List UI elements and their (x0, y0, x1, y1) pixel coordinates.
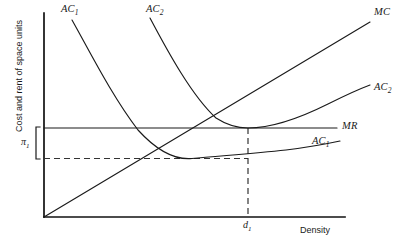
curve-label-mc: MC (374, 6, 390, 17)
curve-label-ac1-right: AC1 (312, 135, 330, 149)
guides-group (44, 128, 248, 217)
y-axis-title: Cost and rent of space units (14, 20, 24, 132)
d1-tick-label: d1 (243, 219, 252, 233)
pi-bracket (36, 127, 40, 159)
curve-ac1 (72, 20, 340, 159)
figure-container: AC1 AC2 MC AC2 MR AC1 π1 d1 Density Cost… (0, 0, 405, 244)
bracket-group (36, 127, 40, 159)
x-axis-title: Density (300, 225, 330, 235)
curves-group (44, 18, 370, 217)
pi1-tick-label: π1 (21, 136, 30, 150)
curve-label-ac2-right: AC2 (374, 81, 392, 95)
curve-mc (44, 22, 370, 217)
curve-ac2 (150, 18, 370, 128)
axes-group (44, 13, 345, 217)
curve-label-ac2-left: AC2 (146, 3, 164, 17)
curve-label-ac1-left: AC1 (61, 3, 79, 17)
curve-label-mr: MR (342, 120, 358, 131)
